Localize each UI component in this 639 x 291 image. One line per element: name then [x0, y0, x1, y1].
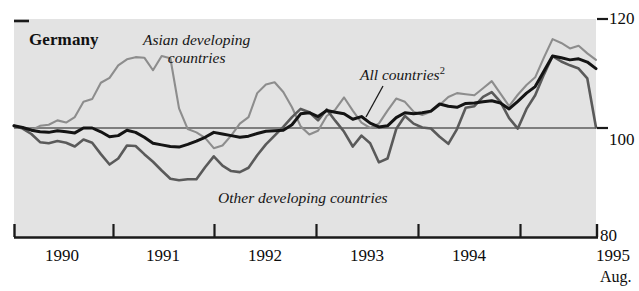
- x-axis-tick-1994: 1994: [439, 246, 499, 266]
- series-label-other-developing: Other developing countries: [218, 189, 388, 207]
- x-axis-tick-1991: 1991: [133, 246, 193, 266]
- x-axis-tick-1992: 1992: [235, 246, 295, 266]
- series-label-all-countries-text: All countries: [360, 66, 440, 83]
- x-axis-end-note: Aug.: [600, 268, 632, 286]
- x-axis-tick-1995: 1995: [596, 246, 639, 266]
- series-label-all-countries: All countries2: [360, 66, 445, 84]
- series-label-asian-developing: Asian developing countries: [143, 31, 250, 68]
- y-axis-tick-120: 120: [609, 9, 635, 29]
- x-axis-tick-1990: 1990: [32, 246, 92, 266]
- series-label-asian-line2: countries: [143, 49, 250, 67]
- y-axis-tick-80: 80: [600, 226, 617, 246]
- series-line-other-developing-countries: [14, 56, 596, 180]
- panel-title: Germany: [29, 30, 99, 50]
- y-axis-tick-100: 100: [609, 130, 635, 150]
- footnote-marker-2: 2: [440, 65, 445, 76]
- series-line-all-countries: [14, 56, 596, 147]
- leader-line-all-countries: [366, 86, 383, 117]
- series-label-asian-line1: Asian developing: [143, 31, 250, 48]
- x-axis-tick-1993: 1993: [337, 246, 397, 266]
